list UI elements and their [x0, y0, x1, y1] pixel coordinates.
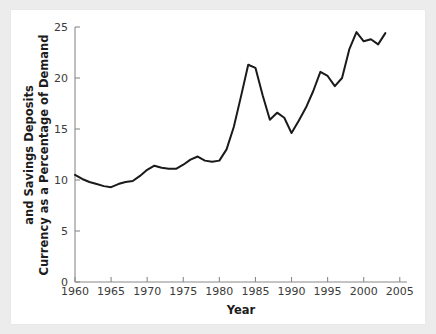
x-tick-label: 1970: [133, 285, 161, 298]
data-series-line: [75, 32, 385, 187]
x-tick-label: 1985: [241, 285, 269, 298]
y-tick-label: 20: [54, 72, 68, 85]
x-axis-title: Year: [226, 303, 256, 317]
figure-card: 0510152025 19601965197019751980198519901…: [11, 10, 425, 324]
x-tick-label: 1995: [314, 285, 342, 298]
line-chart: 0510152025 19601965197019751980198519901…: [11, 10, 425, 324]
y-tick-label: 5: [61, 225, 68, 238]
y-tick-group: 0510152025: [54, 21, 80, 289]
x-tick-label: 1990: [278, 285, 306, 298]
y-tick-label: 15: [54, 123, 68, 136]
x-tick-label: 2005: [386, 285, 414, 298]
y-axis-title-line2: Currency as a Percentage of Demand: [37, 34, 51, 275]
x-tick-label: 2000: [350, 285, 378, 298]
x-tick-group: 1960196519701975198019851990199520002005: [61, 277, 414, 298]
x-tick-label: 1975: [169, 285, 197, 298]
y-tick-label: 10: [54, 174, 68, 187]
y-tick-label: 25: [54, 21, 68, 34]
y-axis-title-line1: and Savings Deposits: [22, 85, 36, 225]
x-tick-label: 1965: [97, 285, 125, 298]
x-tick-label: 1980: [205, 285, 233, 298]
x-tick-label: 1960: [61, 285, 89, 298]
